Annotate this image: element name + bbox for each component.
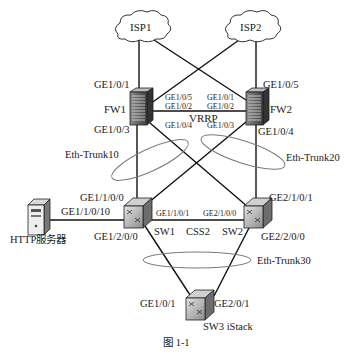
port-fw2-ge1-0-4: GE1/0/4: [258, 127, 294, 138]
port-sw2-ge2-1-0-0: GE2/1/0/0: [203, 210, 236, 218]
sw2-label: SW2: [222, 227, 243, 238]
network-topology-diagram: ISP1 ISP2 FW1 FW2 SW1 SW2 SW3 iStack HTT…: [0, 0, 356, 356]
fw2-label: FW2: [270, 104, 292, 115]
links: [50, 40, 256, 298]
port-fw1-ge1-0-3: GE1/0/3: [94, 125, 130, 136]
trunk30-ellipse: [143, 252, 251, 268]
port-fw2-ge1-0-1: GE1/0/1: [207, 94, 234, 102]
eth-trunk30-label: Eth-Trunk30: [257, 256, 311, 267]
eth-trunk10-label: Eth-Trunk10: [65, 150, 119, 161]
port-fw1-ge1-0-2: GE1/0/2: [165, 103, 192, 111]
switch-icon: [186, 290, 214, 320]
vrrp-label: VRRP: [189, 113, 218, 124]
port-sw1-ge1-1-0-0: GE1/1/0/0: [80, 193, 124, 204]
port-fw2-ge1-0-2: GE1/0/2: [207, 103, 234, 111]
port-sw1-ge1-1-0-1: GE1/1/0/1: [156, 210, 189, 218]
port-fw1-ge1-0-5: GE1/0/5: [165, 94, 192, 102]
port-fw1-ge1-0-1: GE1/0/1: [94, 80, 130, 91]
switch-icon: [244, 198, 272, 228]
firewall-icon: [246, 88, 269, 125]
port-sw2-ge2-2-0-0: GE2/2/0/0: [261, 232, 305, 243]
port-sw3-ge2-0-1: GE2/0/1: [214, 299, 250, 310]
isp2-label: ISP2: [240, 22, 261, 33]
switch-icon: [124, 198, 152, 228]
server-icon: [28, 199, 50, 235]
css2-label: CSS2: [186, 227, 210, 238]
topology-lines: [0, 0, 356, 356]
port-sw3-ge1-0-1: GE1/0/1: [140, 299, 176, 310]
port-sw1-ge1-2-0-0: GE1/2/0/0: [94, 232, 138, 243]
port-sw2-ge2-1-0-1: GE2/1/0/1: [269, 193, 313, 204]
port-fw2-ge1-0-5: GE1/0/5: [263, 80, 299, 91]
port-sw1-ge1-1-0-10: GE1/1/0/10: [61, 207, 110, 218]
eth-trunk20-label: Eth-Trunk20: [286, 153, 340, 164]
trunk10-ellipse: [107, 132, 192, 187]
sw1-label: SW1: [154, 227, 175, 238]
figure-caption: 图 1-1: [163, 338, 190, 349]
firewall-icon: [130, 88, 153, 125]
server-label: HTTP服务器: [10, 235, 66, 246]
fw1-label: FW1: [104, 104, 126, 115]
sw3-label: SW3 iStack: [203, 322, 253, 333]
isp1-label: ISP1: [130, 22, 151, 33]
